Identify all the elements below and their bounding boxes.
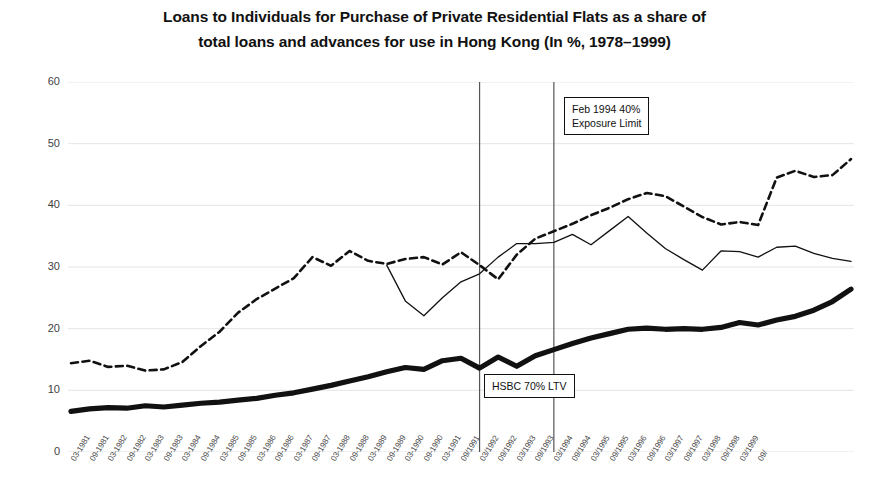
- y-axis-tick-label: 10: [20, 383, 60, 395]
- y-axis-tick-label: 40: [20, 198, 60, 210]
- y-axis-tick-label: 60: [20, 75, 60, 87]
- annotation-hsbc-ltv: HSBC 70% LTV: [484, 374, 575, 398]
- y-axis-tick-label: 30: [20, 260, 60, 272]
- chart-title-line1: Loans to Individuals for Purchase of Pri…: [163, 8, 706, 25]
- chart-title-line2: total loans and advances for use in Hong…: [0, 29, 869, 54]
- y-axis-tick-label: 0: [20, 445, 60, 457]
- annotation-exposure-line2: Exposure Limit: [572, 116, 641, 130]
- annotation-exposure-limit: Feb 1994 40% Exposure Limit: [564, 97, 649, 135]
- series-line-thick-solid: [71, 289, 851, 411]
- series-group: [71, 159, 851, 411]
- gridlines: [68, 82, 854, 452]
- annotation-ltv-line1: HSBC 70% LTV: [492, 379, 567, 393]
- plot-area: [68, 82, 854, 452]
- y-axis-tick-label: 20: [20, 322, 60, 334]
- chart-title: Loans to Individuals for Purchase of Pri…: [0, 4, 869, 54]
- chart-svg: [68, 82, 854, 452]
- series-line-dashed: [71, 159, 851, 371]
- y-axis-tick-label: 50: [20, 137, 60, 149]
- series-line-thin-solid: [387, 216, 851, 315]
- chart-page: Loans to Individuals for Purchase of Pri…: [0, 0, 869, 503]
- annotation-exposure-line1: Feb 1994 40%: [572, 102, 641, 116]
